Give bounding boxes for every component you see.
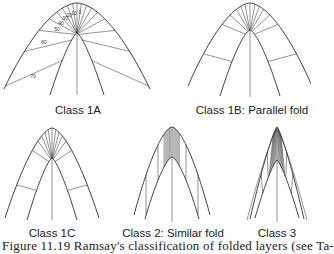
dip-isogon bbox=[53, 136, 63, 159]
label-class-1b: Class 1B: Parallel fold bbox=[196, 104, 309, 116]
dip-isogon bbox=[38, 141, 51, 159]
dip-isogon bbox=[17, 185, 37, 191]
dip-isogon bbox=[236, 9, 248, 30]
dip-isogon bbox=[261, 174, 262, 193]
isogon-label-60: 60 bbox=[41, 39, 47, 45]
dip-isogon bbox=[82, 40, 129, 51]
panel-class-1a bbox=[4, 3, 150, 95]
dip-isogon bbox=[53, 141, 66, 159]
dip-isogon bbox=[291, 174, 292, 193]
figure-caption: Figure 11.19 Ramsay's classification of … bbox=[2, 238, 334, 254]
dip-isogon bbox=[204, 54, 233, 62]
dip-isogon bbox=[45, 132, 52, 158]
dip-isogon bbox=[78, 19, 105, 34]
dip-isogon bbox=[286, 153, 287, 178]
dip-isogon bbox=[245, 4, 250, 30]
dip-isogon bbox=[79, 30, 115, 34]
dip-isogon bbox=[42, 136, 52, 159]
panel-class-1b bbox=[188, 3, 311, 97]
dip-isogon bbox=[251, 6, 260, 30]
dip-isogon bbox=[267, 153, 268, 178]
dip-isogon bbox=[73, 4, 77, 33]
dip-isogon bbox=[32, 150, 49, 161]
dip-isogon bbox=[241, 6, 250, 30]
isogon-label-0: 0 bbox=[79, 9, 82, 15]
dip-isogon bbox=[68, 185, 88, 191]
dip-isogon bbox=[250, 4, 255, 30]
dip-isogon bbox=[52, 132, 59, 158]
dip-isogon bbox=[48, 130, 52, 158]
dip-isogon bbox=[92, 61, 149, 86]
dip-isogon bbox=[24, 40, 71, 51]
dip-isogon bbox=[55, 150, 72, 161]
dip-isogon bbox=[268, 54, 297, 62]
label-class-1a: Class 1A bbox=[55, 104, 101, 116]
panel-class-2 bbox=[134, 127, 210, 222]
panel-class-1c bbox=[5, 128, 99, 220]
dip-isogon bbox=[52, 130, 56, 158]
isogon-label-10: 10 bbox=[71, 10, 77, 16]
isogon-label-70: 70 bbox=[30, 73, 36, 79]
dip-isogon bbox=[251, 9, 263, 30]
outer-surface bbox=[188, 3, 311, 86]
panel-class-3 bbox=[247, 127, 307, 222]
isogon-label-50: 50 bbox=[54, 26, 60, 32]
